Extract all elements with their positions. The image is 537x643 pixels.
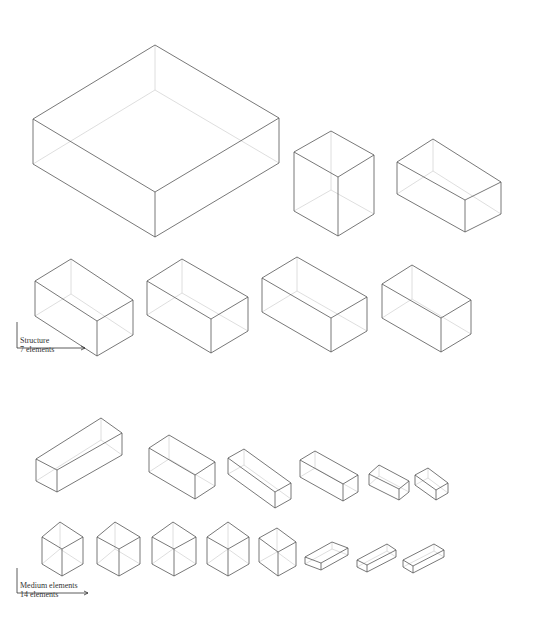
box xyxy=(97,522,140,576)
box xyxy=(382,265,471,352)
box xyxy=(262,257,367,352)
structure-title: Structure xyxy=(20,336,54,345)
box xyxy=(369,465,409,500)
box xyxy=(403,544,444,573)
box xyxy=(397,139,501,232)
box xyxy=(300,451,358,501)
box xyxy=(357,544,396,572)
medium-elements-section xyxy=(17,418,448,595)
medium-elements-title: Medium elements xyxy=(20,581,78,590)
box xyxy=(305,542,348,570)
box xyxy=(33,45,279,237)
box xyxy=(36,418,122,492)
box xyxy=(42,522,83,576)
structure-label: Structure 7 elements xyxy=(20,336,54,354)
box xyxy=(415,468,448,500)
medium-elements-count: 14 elements xyxy=(20,590,78,599)
structure-count: 7 elements xyxy=(20,345,54,354)
box xyxy=(152,522,196,576)
isometric-diagram xyxy=(0,0,537,643)
structure-section xyxy=(17,45,501,356)
box xyxy=(207,522,249,576)
box xyxy=(149,435,215,499)
box xyxy=(259,528,296,576)
medium-elements-label: Medium elements 14 elements xyxy=(20,581,78,599)
box xyxy=(294,131,374,236)
box xyxy=(228,449,291,508)
box xyxy=(147,259,248,353)
